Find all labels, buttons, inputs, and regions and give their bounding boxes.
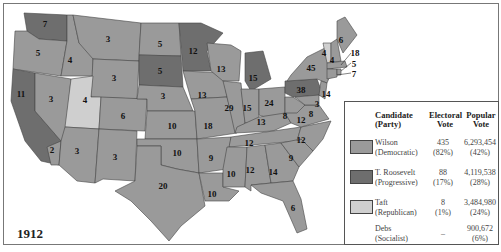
svg-text:7: 7 (43, 19, 48, 29)
svg-text:10: 10 (173, 148, 183, 158)
svg-text:3: 3 (113, 152, 118, 162)
svg-text:18: 18 (204, 121, 214, 131)
svg-text:3: 3 (75, 146, 80, 156)
state-ri (337, 69, 341, 75)
popular-vote: 4,119,538 (28%) (461, 168, 499, 188)
legend-header-popular: Popular Vote (463, 111, 499, 129)
svg-text:13: 13 (257, 117, 267, 127)
electoral-vote: – (429, 229, 457, 239)
state-fl (251, 181, 307, 233)
svg-text:18: 18 (351, 48, 361, 58)
state-ct (327, 69, 337, 79)
svg-text:5: 5 (352, 59, 357, 69)
popular-vote: 3,484,980 (24%) (461, 198, 499, 218)
svg-text:9: 9 (289, 153, 294, 163)
svg-text:3: 3 (49, 94, 54, 104)
state-ms (223, 147, 247, 187)
svg-text:8: 8 (283, 111, 288, 121)
candidate-name: Debs (Socialist) (375, 224, 408, 244)
svg-text:15: 15 (249, 73, 259, 83)
svg-text:2: 2 (50, 145, 55, 155)
svg-text:12: 12 (189, 46, 199, 56)
svg-text:3: 3 (315, 99, 320, 109)
svg-text:15: 15 (243, 103, 253, 113)
svg-text:29: 29 (225, 103, 235, 113)
legend-row-roosevelt: T. Roosevelt (Progressive) 88 (17%) 4,11… (345, 168, 498, 198)
taft-swatch (350, 200, 373, 214)
svg-text:6: 6 (121, 111, 126, 121)
svg-text:4: 4 (68, 55, 73, 65)
legend-row-wilson: Wilson (Democratic) 435 (82%) 6,293,454 … (345, 138, 498, 168)
electoral-vote: 88 (17%) (429, 168, 457, 188)
svg-text:3: 3 (112, 73, 117, 83)
svg-text:9: 9 (209, 153, 214, 163)
svg-text:12: 12 (297, 115, 307, 125)
svg-text:12: 12 (246, 165, 256, 175)
legend-panel: Candidate (Party) Electoral Vote Popular… (344, 101, 499, 245)
wilson-swatch (350, 140, 373, 154)
svg-text:4: 4 (83, 95, 88, 105)
svg-text:13: 13 (198, 90, 208, 100)
svg-text:24: 24 (265, 98, 275, 108)
svg-text:4: 4 (322, 48, 327, 58)
svg-text:3: 3 (161, 91, 166, 101)
svg-text:10: 10 (168, 121, 178, 131)
svg-text:5: 5 (158, 39, 163, 49)
svg-text:12: 12 (245, 138, 255, 148)
svg-text:6: 6 (291, 203, 296, 213)
roosevelt-swatch (350, 170, 373, 184)
svg-text:7: 7 (352, 69, 357, 79)
svg-text:11: 11 (17, 89, 26, 99)
svg-text:12: 12 (297, 135, 307, 145)
candidate-name: Taft (Republican) (375, 198, 417, 218)
popular-vote: 6,293,454 (42%) (461, 138, 499, 158)
svg-text:13: 13 (217, 64, 227, 74)
svg-text:14: 14 (269, 167, 279, 177)
svg-text:6: 6 (339, 35, 344, 45)
svg-text:20: 20 (159, 181, 169, 191)
svg-text:4: 4 (330, 55, 335, 65)
state-mi (245, 51, 271, 91)
svg-text:14: 14 (322, 89, 332, 99)
svg-text:38: 38 (297, 85, 307, 95)
legend-header-electoral: Electoral Vote (429, 111, 461, 129)
svg-text:8: 8 (309, 109, 314, 119)
svg-text:5: 5 (36, 48, 41, 58)
svg-text:3: 3 (106, 34, 111, 44)
svg-text:10: 10 (227, 169, 237, 179)
popular-vote: 900,672 (6%) (461, 224, 499, 244)
legend-row-debs: Debs (Socialist) – 900,672 (6%) (345, 224, 498, 252)
legend-header-candidate: Candidate (Party) (375, 111, 413, 129)
svg-text:5: 5 (158, 66, 163, 76)
svg-text:45: 45 (307, 63, 317, 73)
electoral-vote: 435 (82%) (429, 138, 457, 158)
svg-text:10: 10 (208, 189, 218, 199)
map-year-label: 1912 (17, 226, 43, 242)
candidate-name: Wilson (Democratic) (375, 138, 418, 158)
candidate-name: T. Roosevelt (Progressive) (375, 168, 418, 188)
electoral-vote: 8 (1%) (429, 198, 457, 218)
